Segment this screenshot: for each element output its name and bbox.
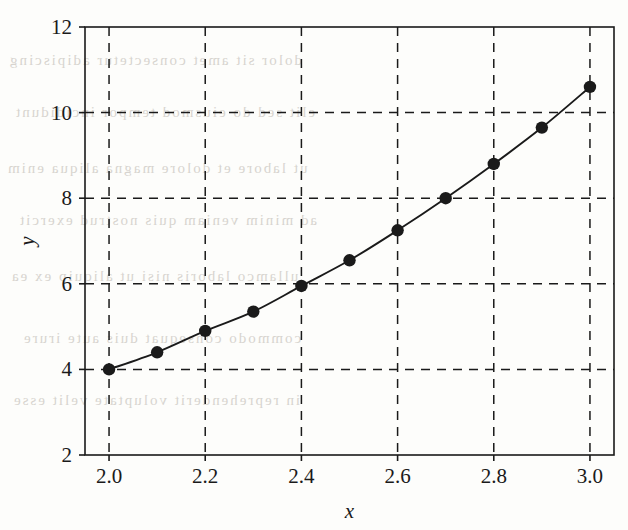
data-point-marker-3	[247, 305, 259, 317]
data-point-marker-2	[199, 325, 211, 337]
figure-container: dolor sit amet consectetur adipiscing el…	[0, 0, 628, 530]
y-axis-title: y	[15, 236, 39, 248]
xtick-label-3.0: 3.0	[577, 464, 603, 488]
data-point-marker-10	[584, 81, 596, 93]
chart-svg: 2.02.22.42.62.83.024681012xy	[0, 0, 628, 530]
xtick-label-2.8: 2.8	[481, 464, 507, 488]
data-point-marker-8	[488, 158, 500, 170]
ytick-label-2: 2	[62, 443, 73, 467]
ytick-label-4: 4	[62, 357, 73, 381]
ytick-label-10: 10	[51, 101, 72, 125]
data-point-marker-1	[151, 346, 163, 358]
ytick-label-8: 8	[62, 186, 73, 210]
data-point-marker-9	[536, 121, 548, 133]
x-axis-title: x	[344, 499, 355, 523]
plot-frame	[85, 27, 614, 455]
data-point-marker-4	[295, 280, 307, 292]
data-point-marker-7	[439, 192, 451, 204]
ytick-label-12: 12	[51, 15, 72, 39]
xtick-label-2.6: 2.6	[384, 464, 410, 488]
ytick-label-6: 6	[62, 272, 73, 296]
xtick-label-2.4: 2.4	[288, 464, 315, 488]
xtick-label-2.2: 2.2	[192, 464, 218, 488]
data-point-marker-6	[391, 224, 403, 236]
data-point-marker-0	[103, 363, 115, 375]
data-series-line	[109, 87, 590, 369]
xtick-label-2.0: 2.0	[96, 464, 122, 488]
data-point-marker-5	[343, 254, 355, 266]
